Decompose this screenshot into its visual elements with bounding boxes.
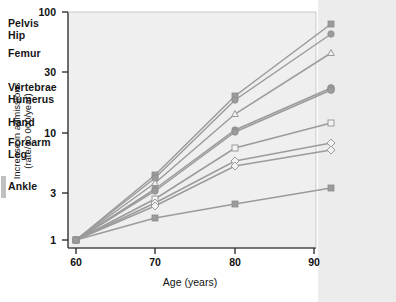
legend-item-pelvis: Pelvis xyxy=(8,18,39,29)
y-tick-marks xyxy=(62,12,68,240)
x-tick-label-80: 80 xyxy=(220,256,250,268)
legend-item-ankle: Ankle xyxy=(8,181,37,192)
legend-item-forearm: Forearm xyxy=(8,137,51,148)
chart-figure: 100 30 10 3 1 60 70 80 90 Age (years) In… xyxy=(0,0,396,302)
plot-background xyxy=(68,12,316,248)
legend-item-vertebrae: Vertebrae xyxy=(8,82,57,93)
x-tick-label-70: 70 xyxy=(140,256,170,268)
x-axis-label: Age (years) xyxy=(120,276,260,288)
legend-item-hip: Hip xyxy=(8,30,25,41)
scan-artifact xyxy=(1,176,6,198)
legend-item-leg: Leg xyxy=(8,149,27,160)
legend-item-femur: Femur xyxy=(8,48,41,59)
x-tick-label-60: 60 xyxy=(61,256,91,268)
y-tick-label-1: 1 xyxy=(26,234,56,246)
x-tick-marks xyxy=(76,248,314,254)
legend-item-hand: Hand xyxy=(8,117,35,128)
chart-plot-area xyxy=(0,0,396,302)
x-tick-label-90: 90 xyxy=(299,256,329,268)
legend-item-humerus: Humerus xyxy=(8,94,54,105)
